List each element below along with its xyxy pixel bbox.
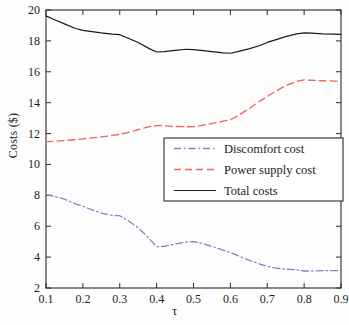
legend-item-label: Power supply cost — [224, 163, 316, 177]
series-line-0 — [46, 195, 341, 271]
legend-box[interactable]: Discomfort costPower supply costTotal co… — [164, 138, 343, 201]
series-line-2 — [46, 16, 341, 53]
legend-item-label: Discomfort cost — [224, 142, 305, 156]
chart-plot: Discomfort costPower supply costTotal co… — [0, 0, 349, 325]
legend-item-label: Total costs — [224, 184, 278, 198]
figure-container: Costs ($) τ 2468101214161820 0.10.20.30.… — [0, 0, 349, 325]
series-line-1 — [46, 80, 341, 142]
